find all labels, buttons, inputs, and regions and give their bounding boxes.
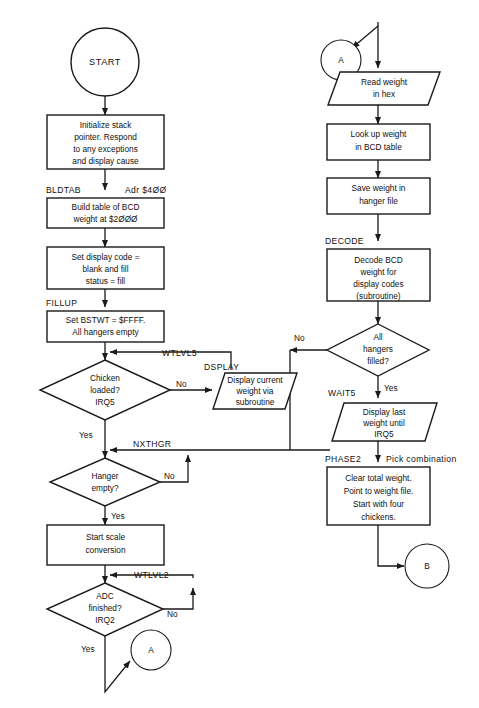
label-fillup: FILLUP — [46, 298, 77, 308]
edge-label-chicken-yes: Yes — [79, 430, 93, 440]
node-hanger-empty-decision[interactable] — [50, 458, 160, 506]
node-decode-bcd-line4: (subroutine) — [356, 291, 401, 301]
node-start-label: START — [89, 57, 121, 67]
edge-label-allhangers-yes: Yes — [384, 383, 398, 393]
node-read-weight-line1: Read weight — [361, 77, 408, 87]
node-save-weight-line2: hanger file — [359, 196, 398, 206]
edge-to-connector-a-top — [352, 26, 378, 48]
node-adc-finished-line1: ADC — [96, 591, 114, 601]
label-nxthgr: NXTHGR — [133, 439, 171, 449]
node-display-last-weight-line1: Display last — [363, 407, 406, 417]
node-lookup-weight-line2: in BCD table — [355, 142, 402, 152]
node-set-display-code-line3: status = fill — [86, 276, 126, 286]
label-dsplay: DSPLAY — [204, 362, 239, 372]
label-wtlvl5: WTLVL5 — [162, 348, 197, 358]
connector-b-label: B — [424, 561, 430, 571]
node-save-weight-line1: Save weight in — [352, 183, 406, 193]
node-set-bstwt-line1: Set BSTWT = $FFFF. — [66, 315, 145, 325]
edge-label-hanger-yes: Yes — [111, 511, 125, 521]
node-clear-total-weight-line2: Point to weight file. — [344, 486, 414, 496]
node-set-display-code-line2: blank and fill — [82, 264, 128, 274]
node-decode-bcd-line1: Decode BCD — [354, 255, 402, 265]
edge-label-chicken-no: No — [176, 379, 187, 389]
node-initialize-stack-line3: to any exceptions — [73, 144, 138, 154]
node-lookup-weight-line1: Look up weight — [351, 129, 408, 139]
node-decode-bcd-line2: weight for — [360, 267, 397, 277]
node-start-scale-line1: Start scale — [86, 532, 126, 542]
label-bldtab: BLDTAB — [46, 185, 81, 195]
edge-adc-no-loop-up — [163, 588, 193, 609]
node-clear-total-weight-line1: Clear total weight. — [345, 473, 411, 483]
node-display-current-weight-line3: subroutine — [236, 397, 275, 407]
node-build-bcd-table-line1: Build table of BCD — [72, 202, 140, 212]
node-clear-total-weight-line3: Start with four — [353, 499, 404, 509]
connector-a-top-label: A — [338, 55, 344, 65]
node-set-display-code-line1: Set display code = — [71, 252, 139, 262]
node-read-weight-line2: in hex — [373, 89, 396, 99]
node-initialize-stack-line1: Initialize stack — [80, 120, 132, 130]
flowchart-svg: START Initialize stack pointer. Respond … — [0, 0, 479, 708]
node-display-current-weight-line2: weight via — [236, 386, 274, 396]
node-build-bcd-table-line2: weight at $2ØØØ — [72, 214, 138, 224]
edge-phase2-to-connector-b — [378, 525, 404, 566]
node-all-hangers-line3: filled? — [367, 356, 389, 366]
edge-label-hanger-no: No — [164, 471, 175, 481]
connector-a-bottom-label: A — [148, 645, 154, 655]
label-pick-combination: Pick combination — [386, 454, 457, 464]
label-phase2: PHASE2 — [325, 454, 361, 464]
label-wait5: WAIT5 — [328, 388, 356, 398]
node-all-hangers-line1: All — [373, 332, 382, 342]
flowchart-canvas: START Initialize stack pointer. Respond … — [0, 0, 479, 708]
label-adr-400: Adr $4ØØ — [125, 185, 167, 195]
node-hanger-empty-line1: Hanger — [91, 471, 118, 481]
node-decode-bcd-line3: display codes — [353, 279, 403, 289]
node-display-current-weight-line1: Display current — [227, 375, 283, 385]
node-adc-finished-line3: IRQ2 — [95, 615, 115, 625]
node-all-hangers-line2: hangers — [363, 344, 393, 354]
label-decode: DECODE — [325, 236, 364, 246]
node-clear-total-weight-line4: chickens. — [361, 512, 396, 522]
node-display-last-weight-line3: IRQ5 — [374, 429, 394, 439]
edge-adc-yes-to-connector-a — [105, 636, 130, 692]
node-initialize-stack-line2: pointer. Respond — [74, 132, 137, 142]
edge-label-adc-no: No — [167, 609, 178, 619]
node-display-last-weight-line2: weight until — [362, 418, 405, 428]
node-start-scale-line2: conversion — [85, 545, 126, 555]
node-chicken-loaded-line3: IRQ5 — [95, 397, 115, 407]
node-initialize-stack-line4: and display cause — [72, 156, 139, 166]
edge-label-allhangers-no: No — [294, 333, 305, 343]
node-chicken-loaded-line2: loaded? — [90, 385, 120, 395]
label-wtlvl2: WTLVL2 — [134, 570, 169, 580]
node-set-bstwt-line2: All hangers empty — [72, 327, 139, 337]
node-chicken-loaded-line1: Chicken — [90, 373, 120, 383]
node-hanger-empty-line2: empty? — [91, 483, 119, 493]
edge-label-adc-yes: Yes — [81, 644, 95, 654]
node-adc-finished-line2: finished? — [88, 603, 122, 613]
